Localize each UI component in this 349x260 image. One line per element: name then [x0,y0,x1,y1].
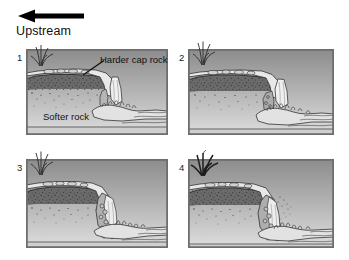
panel-2-grass-icon [192,41,218,65]
upstream-label: Upstream [16,24,71,38]
softer-rock-label: Softer rock [43,112,89,122]
panel-4-grass-icon [190,150,220,176]
panel-number-2: 2 [179,53,184,63]
panel-number-4: 4 [179,163,184,173]
panel-3-grass-icon [30,151,56,175]
panel-number-3: 3 [17,163,22,173]
panel-number-1: 1 [17,53,22,63]
harder-cap-rock-label: Harder cap rock [100,55,168,65]
upstream-arrow-icon [18,9,84,23]
panel-1-grass-icon [30,44,56,66]
waterfall-retreat-figure: Upstream 1 [0,0,349,260]
harder-cap-rock-leader-line [83,60,105,76]
